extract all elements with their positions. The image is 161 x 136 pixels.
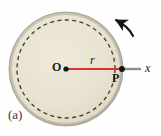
figure-canvas bbox=[0, 0, 161, 136]
center-label-O: O bbox=[52, 61, 61, 73]
point-p-marker bbox=[119, 66, 125, 72]
rotating-disk-figure: O P r x (a) bbox=[0, 0, 161, 136]
radius-label-r: r bbox=[90, 54, 95, 66]
axis-label-x: x bbox=[145, 62, 150, 74]
counterclockwise-rotation-arrow-icon bbox=[116, 20, 133, 36]
center-point-marker bbox=[63, 66, 68, 71]
panel-label: (a) bbox=[8, 108, 22, 121]
point-label-P: P bbox=[112, 72, 119, 84]
